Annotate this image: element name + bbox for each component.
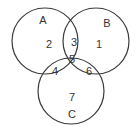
region-bc: 6	[86, 65, 92, 77]
set-label-a: A	[39, 14, 47, 26]
venn-diagram: A B C 2 3 1 5 4 6 7	[0, 0, 136, 127]
region-b-only: 1	[96, 38, 102, 50]
region-ac: 4	[52, 65, 58, 77]
set-label-c: C	[68, 108, 76, 120]
set-label-b: B	[103, 17, 110, 29]
region-ab: 3	[71, 36, 77, 48]
region-a-only: 2	[46, 38, 52, 50]
region-c-only: 7	[69, 91, 75, 103]
region-abc: 5	[69, 53, 75, 65]
